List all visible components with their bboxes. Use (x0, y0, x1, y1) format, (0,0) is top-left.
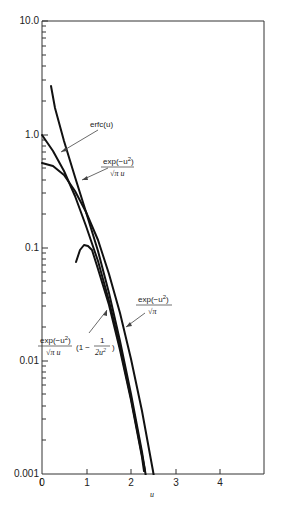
label-text: √π (148, 307, 157, 316)
chart: 10.0 1.0 0.1 0.01 0.001 0 1 2 3 4 u 0 1 … (0, 0, 285, 506)
x-axis-title: u (150, 490, 154, 499)
svg-text:exp(−u2): exp(−u2) (40, 335, 71, 345)
x-tick-label: 3 (173, 477, 179, 488)
y-tick-label: 1.0 (25, 129, 39, 140)
label-text: 1 (100, 336, 105, 345)
y-tick-label: 0.01 (20, 355, 40, 366)
svg-text:2u2: 2u2 (95, 347, 106, 357)
curve-erfc (42, 135, 145, 471)
label-erfc: erfc(u) (90, 120, 113, 129)
label-text: ) (166, 295, 169, 304)
plot-frame (42, 21, 264, 474)
y-tick-label: 0.1 (25, 242, 39, 253)
x-tick-label: 2 (128, 477, 134, 488)
label-text: 2u (95, 348, 103, 357)
x-tick-label: 4 (217, 477, 223, 488)
svg-text:exp(−u2): exp(−u2) (103, 156, 134, 166)
y-axis-ticks (42, 21, 48, 440)
label-text: √π u (46, 348, 60, 357)
label-text: ) (112, 343, 115, 352)
x-tick-label: 0 (39, 477, 45, 488)
label-text: exp(−u (40, 336, 65, 345)
svg-text:exp(−u2): exp(−u2) (138, 294, 169, 304)
label-exp-over-sqrtpi: exp(−u2) √π (136, 294, 172, 316)
label-text: (1 − (76, 343, 90, 352)
label-exp-over-sqrtpi-u: exp(−u2) √π u (101, 156, 134, 178)
curve-exp-over-sqrtpi-u (51, 86, 146, 477)
label-asymptotic-corrected: exp(−u2) √π u (1 − 1 2u2 ) (38, 335, 115, 357)
label-text: exp(−u (138, 295, 163, 304)
label-text: √π u (110, 169, 124, 178)
y-axis-labels: 10.0 1.0 0.1 0.01 0.001 (14, 15, 39, 479)
label-text: ) (68, 336, 71, 345)
y-tick-label: 0.001 (14, 468, 39, 479)
label-text: ) (131, 157, 134, 166)
x-tick-label: 1 (84, 477, 90, 488)
y-tick-label: 10.0 (20, 15, 40, 26)
label-text: 2 (103, 347, 106, 353)
label-text: exp(−u (103, 157, 128, 166)
